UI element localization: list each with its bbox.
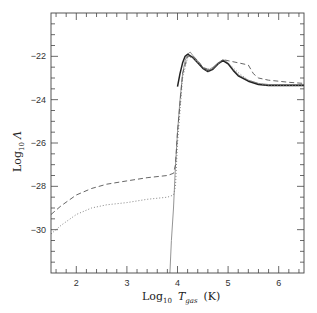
x-tick-label: 3 xyxy=(124,278,129,288)
x-tick-label: 5 xyxy=(226,278,231,288)
y-tick-label: −26 xyxy=(31,138,46,148)
y-tick-label: −30 xyxy=(31,225,46,235)
x-tick-label: 2 xyxy=(74,278,79,288)
x-tick-label: 6 xyxy=(276,278,281,288)
y-axis-label: Log10Λ xyxy=(11,131,26,172)
cooling-function-chart: 23456 −22−24−26−28−30 Log10Tgas(K) Log10… xyxy=(0,0,317,313)
y-tick-label: −24 xyxy=(31,95,46,105)
y-tick-label: −22 xyxy=(31,51,46,61)
x-axis-label: Log10Tgas(K) xyxy=(142,290,220,305)
background xyxy=(0,0,317,313)
x-tick-label: 4 xyxy=(175,278,180,288)
y-tick-label: −28 xyxy=(31,181,46,191)
